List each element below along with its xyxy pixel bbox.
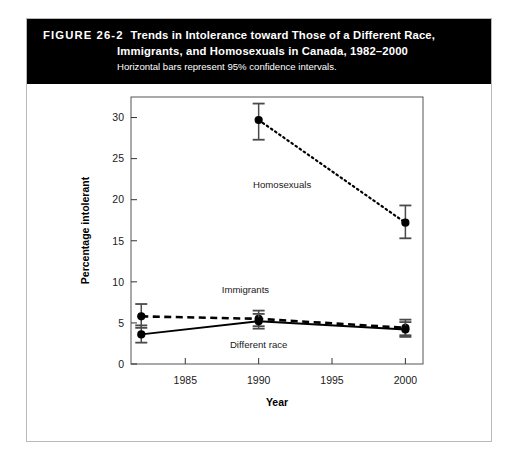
y-tick-label: 20 <box>112 193 124 205</box>
line-chart: 051015202530 1985199019952000 Homosexual… <box>27 84 493 441</box>
y-tick-label: 30 <box>112 111 124 123</box>
y-tick-label: 5 <box>118 317 124 329</box>
figure-title-text-1: Trends in Intolerance toward Those of a … <box>131 29 436 41</box>
figure-subtitle: Horizontal bars represent 95% confidence… <box>43 59 475 74</box>
data-point-marker <box>255 317 263 325</box>
y-tick-label: 15 <box>112 235 124 247</box>
figure-title-line-1: FIGURE 26-2Trends in Intolerance toward … <box>43 28 475 44</box>
x-tick-label: 1995 <box>320 374 344 386</box>
y-axis: 051015202530 <box>112 111 137 369</box>
x-axis: 1985199019952000 <box>174 358 418 386</box>
y-tick-label: 25 <box>112 152 124 164</box>
data-point-marker <box>401 219 409 227</box>
x-tick-label: 1990 <box>247 374 271 386</box>
x-tick-label: 2000 <box>394 374 418 386</box>
y-tick-label: 0 <box>118 358 124 370</box>
series-label-homosexuals: Homosexuals <box>253 179 311 190</box>
chart-plot-area: 051015202530 1985199019952000 Homosexual… <box>27 84 491 441</box>
series-homosexuals <box>253 104 412 239</box>
series-line <box>141 321 405 334</box>
data-series-group <box>135 104 411 343</box>
series-label-immigrants: Immigrants <box>222 284 270 295</box>
data-point-marker <box>137 330 145 338</box>
y-tick-label: 10 <box>112 276 124 288</box>
data-point-marker <box>401 325 409 333</box>
figure-header-banner: FIGURE 26-2Trends in Intolerance toward … <box>27 19 491 84</box>
x-axis-title: Year <box>266 396 288 408</box>
x-tick-label: 1985 <box>174 374 198 386</box>
data-point-marker <box>137 312 145 320</box>
figure-number: FIGURE 26-2 <box>43 29 124 41</box>
series-line <box>259 120 406 223</box>
plot-frame-rect <box>131 97 423 364</box>
series-label-different-race: Different race <box>230 339 287 350</box>
figure-container: FIGURE 26-2Trends in Intolerance toward … <box>26 18 492 442</box>
y-axis-title: Percentage intolerant <box>79 176 91 284</box>
figure-title-line-2: Immigrants, and Homosexuals in Canada, 1… <box>43 44 475 60</box>
plot-frame <box>131 97 423 364</box>
data-point-marker <box>255 116 263 124</box>
